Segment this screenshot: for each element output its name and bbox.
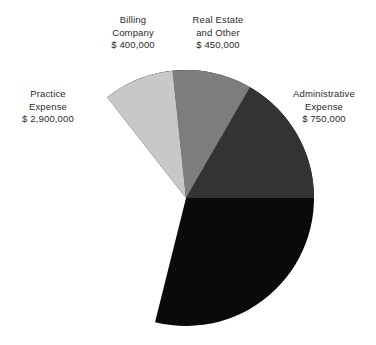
pie-label-real-estate-and-other-line2: and Other (177, 27, 259, 40)
pie-label-real-estate-and-other-line1: Real Estate (177, 14, 259, 27)
pie-label-billing-company-line2: Company (96, 27, 170, 40)
pie-label-billing-company-line1: Billing (96, 14, 170, 27)
pie-label-administrative-expense-line1: Administrative (276, 88, 372, 101)
pie-label-administrative-expense-value: $ 750,000 (276, 113, 372, 126)
pie-chart: Billing Company $ 400,000 Real Estate an… (0, 0, 376, 345)
pie-label-practice-expense-line1: Practice (6, 88, 90, 101)
pie-label-billing-company-value: $ 400,000 (96, 39, 170, 52)
pie-label-administrative-expense: Administrative Expense $ 750,000 (276, 88, 372, 126)
pie-label-administrative-expense-line2: Expense (276, 101, 372, 114)
pie-label-practice-expense-line2: Expense (6, 101, 90, 114)
pie-label-practice-expense-value: $ 2,900,000 (6, 113, 90, 126)
pie-label-practice-expense: Practice Expense $ 2,900,000 (6, 88, 90, 126)
pie-label-real-estate-and-other: Real Estate and Other $ 450,000 (177, 14, 259, 52)
pie-label-real-estate-and-other-value: $ 450,000 (177, 39, 259, 52)
pie-slice-billing[interactable] (107, 71, 186, 198)
pie-label-billing-company: Billing Company $ 400,000 (96, 14, 170, 52)
